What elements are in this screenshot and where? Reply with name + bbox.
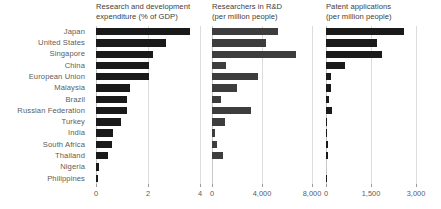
bar-series xyxy=(326,26,416,184)
bar-slot xyxy=(326,82,416,93)
bar-slot xyxy=(326,116,416,127)
panel-title-line-2: expenditure (% of GDP) xyxy=(96,12,190,22)
bar xyxy=(96,141,112,148)
category-label: Philippines xyxy=(0,173,90,184)
bar xyxy=(96,28,190,35)
bar-slot xyxy=(212,150,312,161)
bar-slot xyxy=(326,94,416,105)
x-tick-mark xyxy=(96,184,97,187)
bar-slot xyxy=(96,173,200,184)
bar xyxy=(212,39,266,46)
category-label: Russian Federation xyxy=(0,105,90,116)
bar-slot xyxy=(212,49,312,60)
bar xyxy=(96,175,98,182)
x-axis: 024 xyxy=(96,184,200,206)
bar xyxy=(96,62,149,69)
bar xyxy=(212,84,237,91)
category-axis-labels: JapanUnited StatesSingaporeChinaEuropean… xyxy=(0,26,90,184)
bar-slot xyxy=(326,150,416,161)
category-label: Turkey xyxy=(0,116,90,127)
bar-slot xyxy=(212,94,312,105)
bar xyxy=(212,62,226,69)
chart-panel-patent-applications: Patent applications(per million people)0… xyxy=(326,0,416,209)
bar xyxy=(326,28,404,35)
x-tick-mark xyxy=(212,184,213,187)
plot-area xyxy=(212,26,312,184)
bar-slot xyxy=(326,161,416,172)
bar xyxy=(96,51,153,58)
x-tick-label: 2 xyxy=(146,189,150,198)
bar-slot xyxy=(212,128,312,139)
bar-slot xyxy=(326,173,416,184)
bar xyxy=(212,107,251,114)
bar-slot xyxy=(96,94,200,105)
bar-slot xyxy=(212,71,312,82)
bar-slot xyxy=(96,116,200,127)
bar xyxy=(96,163,99,170)
bar-slot xyxy=(326,128,416,139)
bar-slot xyxy=(212,173,312,184)
bar-series xyxy=(96,26,200,184)
panel-title: Researchers in R&D(per million people) xyxy=(212,2,282,22)
panel-title-line-2: (per million people) xyxy=(212,12,282,22)
category-label: Singapore xyxy=(0,49,90,60)
panel-title-line-2: (per million people) xyxy=(326,12,392,22)
bar xyxy=(96,107,127,114)
category-label: Nigeria xyxy=(0,161,90,172)
bar-slot xyxy=(212,161,312,172)
plot-inner xyxy=(96,26,200,184)
bar-slot xyxy=(96,105,200,116)
bar xyxy=(212,152,223,159)
gridline xyxy=(312,26,313,184)
bar xyxy=(212,73,258,80)
x-tick-label: 0 xyxy=(94,189,98,198)
bar xyxy=(326,96,329,103)
plot-inner xyxy=(326,26,416,184)
bar xyxy=(326,62,345,69)
chart-panel-researchers-in-rd: Researchers in R&D(per million people)04… xyxy=(212,0,312,209)
bar-slot xyxy=(96,139,200,150)
bar-slot xyxy=(96,60,200,71)
x-tick-mark xyxy=(326,184,327,187)
bar xyxy=(96,84,130,91)
bar-slot xyxy=(96,26,200,37)
bar xyxy=(212,51,296,58)
category-label: India xyxy=(0,128,90,139)
x-tick-label: 0 xyxy=(210,189,214,198)
plot-area xyxy=(326,26,416,184)
x-tick-mark xyxy=(200,184,201,187)
plot-area xyxy=(96,26,200,184)
bar-slot xyxy=(326,26,416,37)
bar xyxy=(326,107,332,114)
bar-slot xyxy=(96,37,200,48)
bar-slot xyxy=(96,161,200,172)
gridline xyxy=(200,26,201,184)
bar-slot xyxy=(212,60,312,71)
bar xyxy=(96,118,121,125)
bar xyxy=(96,129,113,136)
bar xyxy=(326,73,331,80)
bar-slot xyxy=(96,128,200,139)
x-tick-label: 3,000 xyxy=(407,189,426,198)
bar xyxy=(326,141,328,148)
panel-title-line-1: Patent applications xyxy=(326,2,391,11)
x-tick-mark xyxy=(148,184,149,187)
gridline xyxy=(416,26,417,184)
x-tick-mark xyxy=(262,184,263,187)
bar xyxy=(326,118,327,125)
bar xyxy=(326,152,328,159)
category-label: Malaysia xyxy=(0,82,90,93)
x-axis: 04,0008,000 xyxy=(212,184,312,206)
category-label: United States xyxy=(0,37,90,48)
category-label: European Union xyxy=(0,71,90,82)
panel-title-line-1: Researchers in R&D xyxy=(212,2,282,11)
bar-slot xyxy=(96,82,200,93)
category-label: Japan xyxy=(0,26,90,37)
multi-panel-bar-chart: JapanUnited StatesSingaporeChinaEuropean… xyxy=(0,0,441,209)
bar xyxy=(212,118,225,125)
bar xyxy=(96,73,149,80)
x-tick-label: 4,000 xyxy=(253,189,272,198)
x-tick-label: 1,500 xyxy=(362,189,381,198)
bar-slot xyxy=(212,139,312,150)
bar-slot xyxy=(212,105,312,116)
